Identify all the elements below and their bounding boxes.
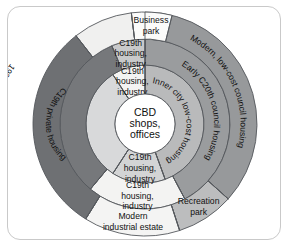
zone-label: C19thhousing,industry [116,66,149,98]
zone-label: C19thhousing,industry [114,38,147,70]
concentric-zone-diagram: Inner city low-cost housingC19thhousing,… [8,7,282,241]
center-node[interactable]: CBD shops, offices [115,94,175,154]
cbd-label-line3: offices [130,128,160,140]
zone-label: 1930s private housing [8,62,17,143]
figure-frame: Inner city low-cost housingC19thhousing,… [7,6,281,240]
zone-label: C19thhousing,industry [121,180,154,212]
